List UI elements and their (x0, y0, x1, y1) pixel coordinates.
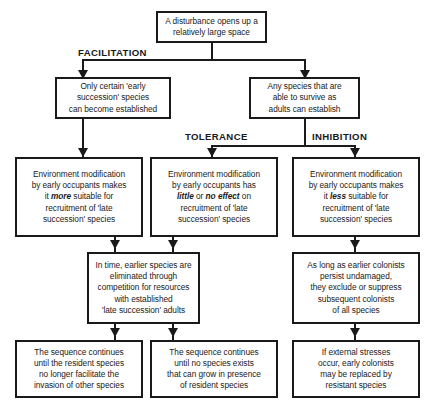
connector-top-bus (82, 59, 306, 61)
node-early-succession: Only certain 'early succession' species … (55, 77, 171, 119)
node-env-mod-more-text: Environment modification by early occupa… (20, 169, 138, 225)
arrowhead-intime-to-facilitate (110, 328, 120, 337)
node-sequence-facilitate: The sequence continues until the residen… (15, 340, 143, 398)
node-env-mod-little-text: Environment modification by early occupa… (155, 169, 273, 225)
node-env-mod-little: Environment modification by early occupa… (150, 157, 278, 237)
node-as-long-as-text: As long as earlier colonists persist und… (297, 260, 415, 316)
node-external-stresses: If external stresses occur, early coloni… (292, 340, 420, 398)
connector-mid-bus (211, 145, 356, 147)
node-sequence-no-species: The sequence continues until no species … (150, 340, 278, 398)
arrowhead-to-envmod-more (78, 148, 88, 157)
node-env-mod-less-text: Environment modification by early occupa… (297, 169, 415, 225)
node-disturbance: A disturbance opens up a relatively larg… (156, 11, 267, 43)
node-any-species-text: Any species that are able to survive as … (254, 81, 355, 115)
node-env-mod-more: Environment modification by early occupa… (15, 157, 143, 237)
node-in-time-eliminated: In time, earlier species are eliminated … (87, 252, 200, 324)
node-disturbance-text: A disturbance opens up a relatively larg… (161, 16, 262, 38)
node-sequence-no-species-text: The sequence continues until no species … (155, 347, 273, 392)
arrowhead-to-envmod-little (207, 148, 217, 157)
flowchart-diagram: FACILITATION TOLERANCE INHIBITION A dist… (0, 0, 426, 412)
arrowhead-aslongas-to-stresses (350, 328, 360, 337)
node-early-succession-text: Only certain 'early succession' species … (60, 81, 166, 115)
node-env-mod-less: Environment modification by early occupa… (292, 157, 420, 237)
arrowhead-envmod-more-to-intime (110, 240, 120, 249)
node-as-long-as: As long as earlier colonists persist und… (292, 252, 420, 324)
node-sequence-facilitate-text: The sequence continues until the residen… (20, 347, 138, 392)
connector-disturbance-stem (211, 43, 213, 59)
node-external-stresses-text: If external stresses occur, early coloni… (297, 347, 415, 392)
arrowhead-envmod-little-to-intime (168, 240, 178, 249)
phase-label-inhibition: INHIBITION (312, 131, 367, 142)
phase-label-facilitation: FACILITATION (78, 47, 147, 58)
node-any-species: Any species that are able to survive as … (249, 77, 360, 119)
arrowhead-envmod-less-to-aslongas (350, 240, 360, 249)
arrowhead-to-envmod-less (350, 148, 360, 157)
phase-label-tolerance: TOLERANCE (185, 131, 248, 142)
connector-any-species-stem (304, 119, 306, 145)
arrowhead-intime-to-nospecies (168, 328, 178, 337)
node-in-time-eliminated-text: In time, earlier species are eliminated … (92, 260, 195, 316)
